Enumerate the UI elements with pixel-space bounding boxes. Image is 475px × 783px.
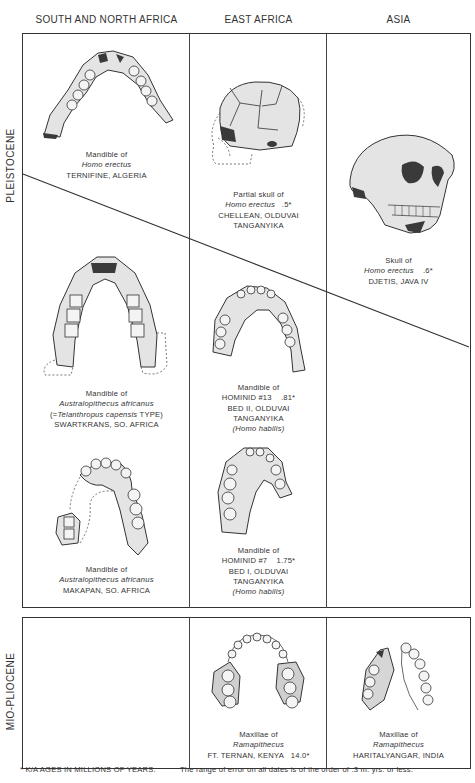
- caption-ternifine: Mandible of Homo erectus TERNIFINE, ALGE…: [23, 150, 190, 181]
- caption-hominid-13: Mandible of HOMINID #13 .81* BED II, OLD…: [190, 383, 327, 434]
- caption-hominid-7: Mandible of HOMINID #7 1.75* BED I, OLDU…: [190, 546, 327, 597]
- djetis-skull-illustration: [340, 125, 462, 240]
- caption-makapan: Mandible of Australopithecus africanus M…: [23, 565, 190, 596]
- chellean-skull-illustration: [200, 68, 310, 168]
- swartkrans-mandible-illustration: [35, 245, 175, 380]
- caption-swartkrans: Mandible of Australopithecus africanus (…: [23, 389, 190, 430]
- hominid-13-mandible-illustration: [205, 280, 310, 380]
- haritalyangar-maxillae-illustration: [358, 640, 438, 715]
- footnote-error-range: The range of error on all dates is of th…: [180, 765, 413, 774]
- footnote-ages: * K/A AGES IN MILLIONS OF YEARS.: [20, 765, 156, 774]
- hominid-7-mandible-illustration: [210, 442, 305, 542]
- ft-ternan-maxillae-illustration: [208, 632, 308, 712]
- caption-djetis: Skull of Homo erectus .6* DJETIS, JAVA I…: [327, 256, 470, 287]
- ternifine-mandible-illustration: [38, 45, 178, 145]
- caption-ft-ternan: Maxillae of Ramapithecus FT. TERNAN, KEN…: [190, 730, 327, 761]
- makapan-mandible-illustration: [50, 455, 160, 560]
- caption-haritalyangar: Maxillae of Ramapithecus HARITALYANGAR, …: [327, 730, 470, 761]
- caption-chellean: Partial skull of Homo erectus .5* CHELLE…: [190, 190, 327, 231]
